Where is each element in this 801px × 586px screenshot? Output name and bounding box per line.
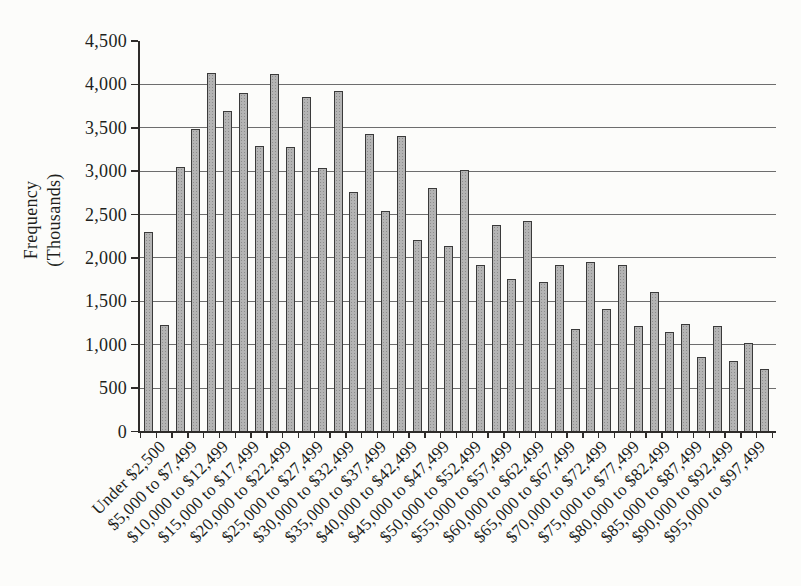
histogram-bar — [523, 221, 532, 432]
x-axis-tick — [424, 433, 426, 438]
histogram-bar — [602, 309, 611, 432]
y-axis-tick — [131, 301, 138, 303]
histogram-bar — [744, 343, 753, 432]
histogram-bar — [144, 232, 153, 432]
histogram-bar — [665, 332, 674, 432]
histogram-bar — [507, 279, 516, 432]
gridline — [138, 214, 777, 215]
histogram-bar — [571, 329, 580, 432]
histogram-bar — [255, 146, 264, 432]
y-axis-tick — [131, 170, 138, 172]
x-axis-tick — [645, 433, 647, 438]
histogram-bar — [697, 357, 706, 432]
histogram-bar — [318, 168, 327, 432]
histogram-bar — [349, 192, 358, 432]
x-axis-tick — [235, 433, 237, 438]
histogram-bar — [365, 134, 374, 432]
histogram-bar — [539, 282, 548, 432]
x-axis-tick — [709, 433, 711, 438]
x-axis-tick — [740, 433, 742, 438]
income-frequency-histogram: Frequency (Thousands) 05001,0001,5002,00… — [0, 0, 801, 586]
histogram-bar — [476, 265, 485, 432]
x-axis-tick — [772, 433, 774, 438]
histogram-bar — [586, 262, 595, 432]
x-axis-tick — [456, 433, 458, 438]
x-axis-tick — [582, 433, 584, 438]
x-axis-tick — [203, 433, 205, 438]
histogram-bar — [191, 129, 200, 432]
y-tick-label: 1,500 — [55, 290, 127, 312]
histogram-bar — [270, 74, 279, 432]
x-axis-tick — [361, 433, 363, 438]
histogram-bar — [634, 326, 643, 432]
histogram-bar — [681, 324, 690, 432]
y-tick-label: 3,000 — [55, 160, 127, 182]
histogram-bar — [492, 225, 501, 432]
y-axis-tick — [131, 344, 138, 346]
x-axis-tick — [298, 433, 300, 438]
histogram-bar — [413, 240, 422, 432]
gridline — [138, 84, 777, 85]
y-axis-tick — [131, 257, 138, 259]
y-tick-label: 1,000 — [55, 334, 127, 356]
gridline — [138, 301, 777, 302]
x-axis-tick — [393, 433, 395, 438]
y-tick-label: 3,500 — [55, 117, 127, 139]
y-axis-tick — [131, 127, 138, 129]
y-axis-tick — [131, 431, 138, 433]
histogram-bar — [650, 292, 659, 432]
histogram-bar — [207, 73, 216, 432]
x-axis-tick — [266, 433, 268, 438]
x-axis-tick — [551, 433, 553, 438]
x-axis-tick — [487, 433, 489, 438]
histogram-bar — [160, 325, 169, 432]
histogram-bar — [618, 265, 627, 432]
x-axis-tick — [140, 433, 142, 438]
gridline — [138, 171, 777, 172]
y-tick-label: 0 — [55, 421, 127, 443]
histogram-bar — [713, 326, 722, 432]
histogram-bar — [428, 188, 437, 432]
y-axis-tick — [131, 40, 138, 42]
histogram-bar — [381, 211, 390, 432]
histogram-bar — [334, 91, 343, 432]
gridline — [138, 127, 777, 128]
y-tick-label: 2,500 — [55, 204, 127, 226]
histogram-bar — [302, 97, 311, 432]
x-axis-tick — [677, 433, 679, 438]
y-axis-tick — [131, 84, 138, 86]
y-axis-title-line1: Frequency — [20, 100, 43, 340]
x-axis-tick — [329, 433, 331, 438]
x-axis-tick — [171, 433, 173, 438]
histogram-bar — [729, 361, 738, 432]
y-tick-label: 2,000 — [55, 247, 127, 269]
histogram-bar — [397, 136, 406, 432]
y-tick-label: 4,500 — [55, 30, 127, 52]
y-tick-label: 4,000 — [55, 73, 127, 95]
y-axis-tick — [131, 387, 138, 389]
histogram-bar — [760, 369, 769, 432]
gridline — [138, 257, 777, 258]
histogram-bar — [223, 111, 232, 432]
histogram-bar — [286, 147, 295, 432]
histogram-bar — [176, 167, 185, 432]
histogram-bar — [555, 265, 564, 432]
y-axis-tick — [131, 214, 138, 216]
y-axis-line — [138, 41, 140, 433]
histogram-bar — [444, 246, 453, 432]
histogram-bar — [239, 93, 248, 432]
x-axis-tick — [614, 433, 616, 438]
y-tick-label: 500 — [55, 377, 127, 399]
x-axis-tick — [519, 433, 521, 438]
histogram-bar — [460, 170, 469, 432]
